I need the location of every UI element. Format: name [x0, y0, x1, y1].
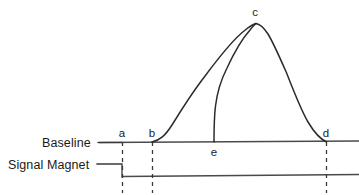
signal-magnet-rule	[122, 175, 359, 177]
signal-magnet-label: Signal Magnet	[8, 158, 90, 172]
signal-magnet-leader-line	[97, 164, 122, 177]
main-peak-curve	[152, 24, 327, 143]
point-label-a: a	[119, 127, 126, 139]
point-label-c: c	[252, 6, 258, 18]
baseline-label: Baseline	[42, 136, 91, 150]
diagram-canvas: Baseline Signal Magnet a b c d e	[0, 0, 359, 195]
inner-rise-curve	[214, 24, 256, 143]
point-label-b: b	[149, 127, 155, 139]
point-label-e: e	[211, 146, 217, 158]
point-label-d: d	[323, 127, 329, 139]
baseline-rule	[99, 141, 359, 143]
signal-baseline-diagram: Baseline Signal Magnet a b c d e	[0, 0, 359, 195]
